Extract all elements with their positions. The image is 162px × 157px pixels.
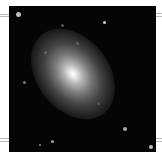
right-top-rule-2 [156,16,162,17]
left-bottom-rule-1 [0,138,9,139]
star [97,102,100,105]
star [51,140,54,143]
star [23,81,26,84]
star [61,24,64,27]
right-bottom-rule-2 [156,141,162,142]
star [44,51,47,54]
right-bottom-rule-1 [156,138,162,139]
star [123,127,127,131]
right-top-rule-1 [156,13,162,14]
left-top-rule-1 [0,14,9,15]
star [16,12,21,17]
star [103,21,106,24]
star [149,145,153,149]
star [39,144,41,146]
left-bottom-rule-2 [0,141,9,142]
elliptical-galaxy [14,12,132,135]
left-top-rule-2 [0,16,9,17]
galaxy-image: Grayscale astronomical image of an ellip… [9,6,156,152]
star [76,42,79,45]
